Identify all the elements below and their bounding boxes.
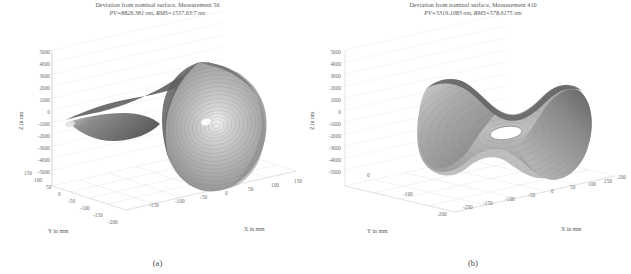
panel-a-svg: [0, 0, 315, 274]
panel-a-surface: [64, 52, 293, 201]
panel-b: Deviation from nominal surface, Measurem…: [315, 0, 631, 274]
panel-b-surface: [397, 58, 616, 207]
panel-b-plot-area: [315, 0, 631, 274]
panel-b-caption: (b): [315, 258, 631, 268]
panel-a: Deviation from nominal surface, Measurem…: [0, 0, 315, 274]
panel-b-svg: [315, 0, 631, 274]
panel-a-caption: (a): [0, 258, 315, 268]
panel-a-plot-area: [0, 0, 315, 274]
figure-two-panel-surface-plots: Deviation from nominal surface, Measurem…: [0, 0, 631, 274]
